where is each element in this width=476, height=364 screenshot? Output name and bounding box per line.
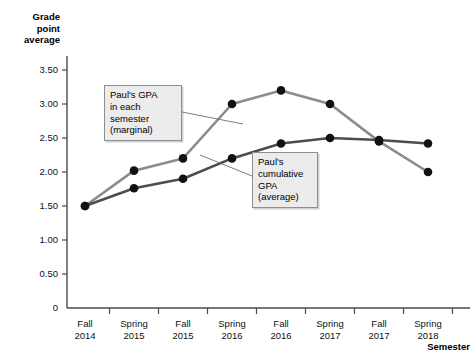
annotation-line: semester	[110, 113, 176, 125]
annotation-line: (average)	[258, 191, 312, 203]
annotation-marginal: Paul's GPAin eachsemester(marginal)	[104, 85, 182, 141]
y-tick-label: 0	[24, 302, 58, 313]
y-tick-label: 1.00	[24, 234, 58, 245]
data-point-marker	[277, 139, 286, 148]
y-tick-label: 1.50	[24, 200, 58, 211]
annotation-cumulative: Paul'scumulativeGPA(average)	[252, 152, 318, 208]
data-point-marker	[277, 86, 286, 95]
data-point-marker	[424, 168, 433, 177]
annotation-line: GPA	[258, 180, 312, 192]
plot-canvas	[0, 0, 476, 364]
data-point-marker	[228, 154, 237, 163]
y-axis-title-line: point	[8, 23, 60, 35]
annotation-leader-line	[182, 112, 243, 124]
y-axis-title-line: Grade	[8, 11, 60, 23]
y-tick-label: 2.00	[24, 166, 58, 177]
data-point-marker	[179, 175, 188, 184]
data-point-marker	[179, 154, 188, 163]
annotation-line: Paul's	[258, 156, 312, 168]
x-tick-label-line: Spring	[398, 318, 458, 330]
x-tick-label-line: 2018	[398, 330, 458, 342]
data-point-marker	[326, 100, 335, 109]
data-point-marker	[424, 139, 433, 148]
y-axis-title-line: average	[8, 34, 60, 46]
y-tick-label: 3.00	[24, 98, 58, 109]
data-point-marker	[375, 136, 384, 145]
x-tick-label: Spring2018	[398, 318, 458, 341]
y-tick-label: 3.50	[24, 64, 58, 75]
x-axis-title: Semester	[406, 341, 470, 353]
data-point-marker	[228, 100, 237, 109]
y-axis-title: Gradepointaverage	[8, 11, 60, 46]
annotation-line: (marginal)	[110, 124, 176, 136]
annotation-line: in each	[110, 101, 176, 113]
annotation-line: cumulative	[258, 168, 312, 180]
annotation-line: Paul's GPA	[110, 89, 176, 101]
data-point-marker	[130, 166, 139, 175]
data-point-marker	[326, 134, 335, 143]
y-tick-label: 0.50	[24, 268, 58, 279]
gpa-line-chart: Gradepointaverage Semester 00.501.001.50…	[0, 0, 476, 364]
annotation-leader-line	[200, 155, 252, 176]
data-point-marker	[81, 202, 90, 211]
y-tick-label: 2.50	[24, 132, 58, 143]
data-point-marker	[130, 184, 139, 193]
